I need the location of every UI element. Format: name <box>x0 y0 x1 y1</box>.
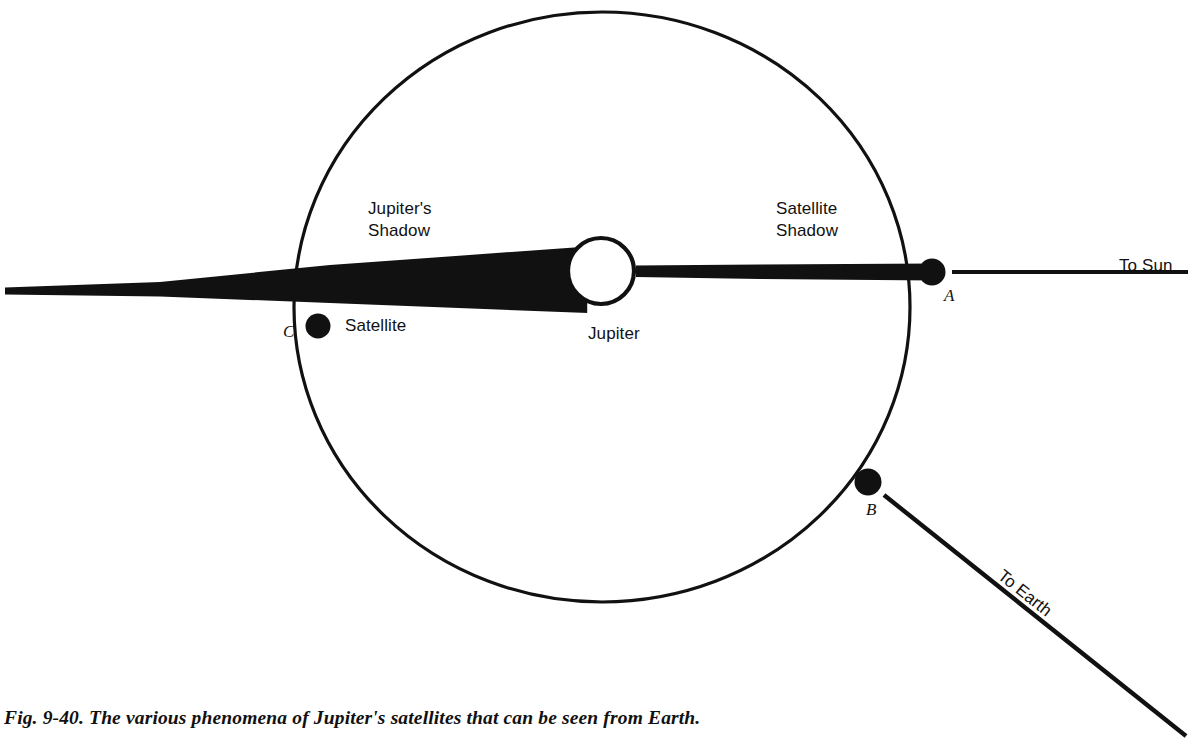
jupiter-label: Jupiter <box>588 323 640 344</box>
satellite-shadow-label: SatelliteShadow <box>776 198 838 242</box>
jupiter-disk <box>568 238 634 304</box>
point-label-a: A <box>944 286 954 306</box>
satellite-b <box>855 469 882 496</box>
satellite-label: Satellite <box>345 315 406 336</box>
satellite-shadow-label-line1: Satellite <box>776 199 837 218</box>
satellite-c <box>306 314 331 339</box>
jupiters-shadow-cone <box>5 247 588 314</box>
to-sun-label: To Sun <box>1119 255 1173 276</box>
figure-root: Jupiter'sShadow SatelliteShadow Satellit… <box>0 0 1192 739</box>
point-label-b: B <box>866 500 876 520</box>
to-earth-ray <box>884 495 1186 736</box>
figure-caption: Fig. 9-40. The various phenomena of Jupi… <box>4 706 1184 730</box>
satellite-shadow-band <box>636 264 934 281</box>
jupiters-shadow-label-line2: Shadow <box>368 221 430 240</box>
jupiters-shadow-label: Jupiter'sShadow <box>368 198 432 242</box>
jupiters-shadow-label-line1: Jupiter's <box>368 199 432 218</box>
satellite-shadow-label-line2: Shadow <box>776 221 838 240</box>
jupiter-phenomena-diagram <box>0 0 1192 739</box>
satellite-orbit <box>294 12 910 602</box>
satellite-a <box>919 259 946 286</box>
point-label-c: C <box>283 322 294 342</box>
